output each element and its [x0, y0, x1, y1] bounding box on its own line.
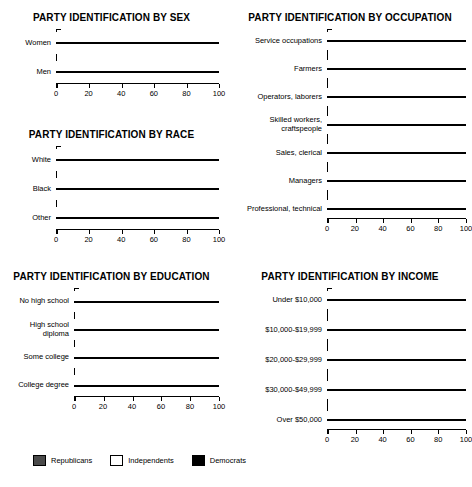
- stacked-bar[interactable]: [56, 71, 219, 73]
- bar-row[interactable]: No high school: [4, 291, 219, 312]
- legend-item[interactable]: Democrats: [192, 455, 246, 466]
- bar-track: [327, 329, 466, 331]
- category-label: Under $10,000: [234, 296, 327, 305]
- stacked-bar[interactable]: [74, 385, 219, 387]
- stacked-bar[interactable]: [56, 42, 219, 44]
- bar-row-gap: [234, 190, 466, 200]
- category-label: Other: [4, 214, 56, 223]
- axis-tick-label: 100: [460, 224, 472, 233]
- axis-spine-segment: [327, 162, 466, 172]
- bar-track: [327, 96, 466, 98]
- axis-spine-segment: [327, 339, 466, 351]
- bar-row[interactable]: Women: [4, 32, 219, 54]
- bar-row[interactable]: White: [4, 149, 219, 171]
- axis-tick: [466, 430, 467, 434]
- category-label: Farmers: [234, 65, 327, 74]
- bar-row[interactable]: Service occupations: [234, 32, 466, 50]
- chart-panel-sex: PARTY IDENTIFICATION BY SEX WomenMen0204…: [4, 12, 219, 99]
- bar-row[interactable]: Sales, clerical: [234, 144, 466, 162]
- stacked-bar[interactable]: [327, 40, 466, 42]
- axis-spine-segment: [327, 50, 466, 60]
- stacked-bar[interactable]: [327, 329, 466, 331]
- axis-tick-label: 80: [182, 235, 190, 244]
- axis-tick-label: 60: [157, 402, 165, 411]
- bar-row[interactable]: Under $10,000: [234, 291, 466, 309]
- legend-item[interactable]: Independents: [110, 455, 173, 466]
- stacked-bar[interactable]: [327, 96, 466, 98]
- axis-tick-label: 100: [213, 402, 226, 411]
- axis-tick-label: 80: [434, 435, 442, 444]
- stacked-bar[interactable]: [74, 301, 219, 303]
- bar-track: [56, 42, 219, 44]
- bar-track: [74, 357, 219, 359]
- bar-row-gap: [234, 309, 466, 321]
- axis-tick-label: 60: [150, 235, 158, 244]
- axis-tick-label: 60: [406, 224, 414, 233]
- bar-track: [56, 188, 219, 190]
- independent-swatch: [110, 455, 123, 466]
- stacked-bar[interactable]: [327, 68, 466, 70]
- category-label: $10,000-$19,999: [234, 326, 327, 335]
- chart-title-sex: PARTY IDENTIFICATION BY SEX: [4, 12, 219, 23]
- bar-row[interactable]: $10,000-$19,999: [234, 321, 466, 339]
- category-label: $20,000-$29,999: [234, 356, 327, 365]
- stacked-bar[interactable]: [327, 299, 466, 301]
- bar-row[interactable]: Men: [4, 61, 219, 83]
- stacked-bar[interactable]: [56, 217, 219, 219]
- bar-track: [327, 299, 466, 301]
- bar-row[interactable]: Professional, technical: [234, 200, 466, 218]
- bar-track: [327, 68, 466, 70]
- axis-tick-label: 40: [117, 235, 125, 244]
- bar-row[interactable]: Black: [4, 178, 219, 200]
- stacked-bar[interactable]: [327, 419, 466, 421]
- bar-row-gap: [234, 162, 466, 172]
- bar-track: [74, 385, 219, 387]
- bar-row-gap: [4, 312, 219, 319]
- axis-tick-label: 80: [182, 89, 190, 98]
- category-label: No high school: [4, 297, 74, 306]
- plot-area-sex: WomenMen020406080100: [4, 29, 219, 99]
- bar-row[interactable]: Operators, laborers: [234, 88, 466, 106]
- x-axis-tick-labels-sex: 020406080100: [4, 88, 219, 99]
- stacked-bar[interactable]: [327, 152, 466, 154]
- bar-row[interactable]: Over $50,000: [234, 411, 466, 429]
- bar-row[interactable]: $30,000-$49,999: [234, 381, 466, 399]
- bar-rows-occupation: Service occupationsFarmersOperators, lab…: [234, 32, 466, 218]
- bar-row[interactable]: Some college: [4, 347, 219, 368]
- stacked-bar[interactable]: [74, 329, 219, 331]
- bar-track: [56, 217, 219, 219]
- bar-rows-sex: WomenMen: [4, 32, 219, 83]
- stacked-bar[interactable]: [327, 389, 466, 391]
- axis-tick-label: 0: [325, 224, 329, 233]
- axis-spine-segment: [56, 171, 219, 178]
- tick-label-track: 020406080100: [56, 88, 219, 99]
- chart-title-income: PARTY IDENTIFICATION BY INCOME: [234, 271, 466, 282]
- plot-area-income: Under $10,000$10,000-$19,999$20,000-$29,…: [234, 288, 466, 445]
- stacked-bar[interactable]: [327, 124, 466, 126]
- bar-row[interactable]: $20,000-$29,999: [234, 351, 466, 369]
- bar-row[interactable]: Farmers: [234, 60, 466, 78]
- bar-track: [74, 329, 219, 331]
- bar-track: [327, 152, 466, 154]
- x-axis-tick-labels-occupation: 020406080100: [234, 223, 466, 234]
- bar-row[interactable]: High school diploma: [4, 319, 219, 340]
- stacked-bar[interactable]: [327, 180, 466, 182]
- bar-rows-education: No high schoolHigh school diplomaSome co…: [4, 291, 219, 396]
- bar-row[interactable]: Managers: [234, 172, 466, 190]
- bar-row[interactable]: College degree: [4, 375, 219, 396]
- bar-row[interactable]: Other: [4, 207, 219, 229]
- axis-spine-segment: [327, 369, 466, 381]
- bar-row-gap: [234, 399, 466, 411]
- stacked-bar[interactable]: [56, 188, 219, 190]
- bar-row[interactable]: Skilled workers, craftspeople: [234, 116, 466, 134]
- axis-spine-segment: [74, 340, 219, 347]
- legend-item[interactable]: Republicans: [33, 455, 92, 466]
- stacked-bar[interactable]: [56, 159, 219, 161]
- stacked-bar[interactable]: [327, 359, 466, 361]
- bar-row-gap: [4, 54, 219, 61]
- axis-tick-label: 0: [325, 435, 329, 444]
- stacked-bar[interactable]: [327, 208, 466, 210]
- tick-label-track: 020406080100: [74, 401, 219, 412]
- stacked-bar[interactable]: [74, 357, 219, 359]
- chart-title-education: PARTY IDENTIFICATION BY EDUCATION: [4, 271, 219, 282]
